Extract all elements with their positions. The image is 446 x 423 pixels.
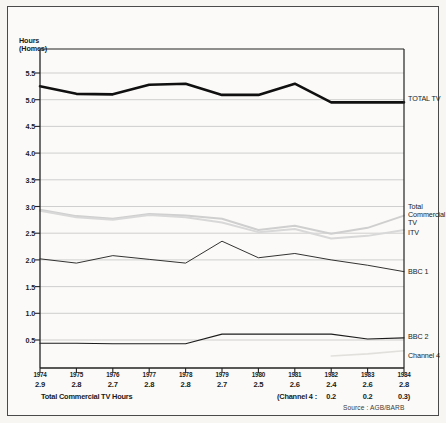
series-label-total-commercial-tv: Total Commercial TV — [408, 203, 445, 227]
x-tick-label: 1974 — [23, 371, 57, 378]
x-tick-label: 1981 — [278, 371, 312, 378]
total-commercial-tv-hours-value: 2.4 — [314, 380, 348, 389]
channel4-hours-value: 0.2 — [351, 392, 385, 401]
y-tick-label: 5.5 — [13, 69, 35, 78]
total-commercial-tv-hours-value: 2.5 — [241, 380, 275, 389]
y-tick-label: 4.0 — [13, 149, 35, 158]
y-tick-label: 5.0 — [13, 96, 35, 105]
total-commercial-tv-hours-value: 2.7 — [96, 380, 130, 389]
y-tick-label: 3.0 — [13, 203, 35, 212]
figure-page: Hours (Homes) 0.51.01.52.02.53.03.54.04.… — [0, 0, 446, 423]
channel4-hours-value: 0.2 — [314, 392, 348, 401]
y-tick-label: 2.5 — [13, 229, 35, 238]
x-tick-label: 1982 — [314, 371, 348, 378]
gridlines — [40, 73, 404, 340]
series-label-total-tv: TOTAL TV — [408, 95, 440, 103]
x-tick-label: 1978 — [169, 371, 203, 378]
total-commercial-tv-hours-value: 2.8 — [132, 380, 166, 389]
data-series-group — [40, 84, 404, 356]
footnote-channel4: (Channel 4 : — [277, 392, 317, 401]
total-commercial-tv-hours-value: 2.6 — [351, 380, 385, 389]
chart-figure: Hours (Homes) 0.51.01.52.02.53.03.54.04.… — [0, 0, 446, 423]
total-commercial-tv-hours-value: 2.8 — [169, 380, 203, 389]
source-note: Source : AGB/BARB — [343, 404, 404, 411]
total-commercial-tv-hours-value: 2.8 — [59, 380, 93, 389]
footnote-total-commercial-tv-hours: Total Commercial TV Hours — [41, 392, 132, 401]
series-line-itv — [40, 211, 404, 239]
x-tick-label: 1977 — [132, 371, 166, 378]
x-tick-label: 1980 — [241, 371, 275, 378]
y-axis-title: Hours (Homes) — [19, 37, 47, 54]
x-tick-label: 1983 — [351, 371, 385, 378]
x-tick-label: 1975 — [59, 371, 93, 378]
y-tick-label: 4.5 — [13, 122, 35, 131]
channel4-hours-value: 0.3) — [387, 392, 421, 401]
x-tick-label: 1979 — [205, 371, 239, 378]
series-label-channel4: Channel 4 — [408, 352, 440, 360]
series-line-channel-4 — [331, 351, 404, 356]
series-label-bbc1: BBC 1 — [408, 268, 428, 276]
y-tick-label: 2.0 — [13, 256, 35, 265]
y-tick-label: 1.0 — [13, 309, 35, 318]
total-commercial-tv-hours-value: 2.8 — [387, 380, 421, 389]
chart-plot-area — [0, 0, 446, 423]
series-label-itv: ITV — [408, 229, 419, 237]
series-label-bbc2: BBC 2 — [408, 333, 428, 341]
x-tick-label: 1976 — [96, 371, 130, 378]
x-tick-label: 1984 — [387, 371, 421, 378]
series-line-bbc-1 — [40, 241, 404, 271]
total-commercial-tv-hours-value: 2.6 — [278, 380, 312, 389]
total-commercial-tv-hours-value: 2.9 — [23, 380, 57, 389]
y-tick-label: 0.5 — [13, 336, 35, 345]
y-tick-label: 1.5 — [13, 283, 35, 292]
y-tick-label: 3.5 — [13, 176, 35, 185]
series-line-bbc-2 — [40, 334, 404, 344]
total-commercial-tv-hours-value: 2.7 — [205, 380, 239, 389]
y-axis-ticks — [35, 73, 40, 340]
